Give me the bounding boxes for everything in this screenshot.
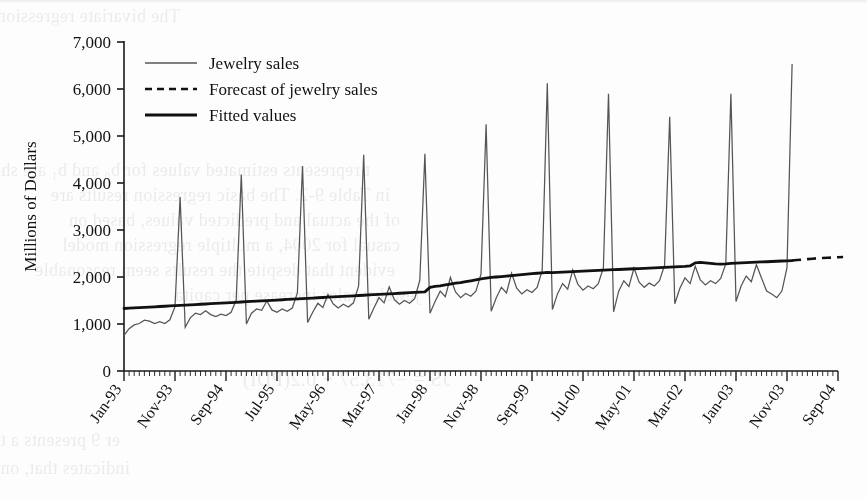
jewelry-sales-chart: 01,0002,0003,0004,0005,0006,0007,000Mill… <box>0 0 867 499</box>
series-forecast <box>792 257 843 261</box>
x-axis-tick-label: Jul-95 <box>241 381 278 424</box>
x-axis-tick-label: Nov-98 <box>439 381 481 431</box>
series-jewelry-sales <box>124 64 792 335</box>
y-axis-tick-label: 5,000 <box>73 127 111 146</box>
x-axis-tick-label: Jan-98 <box>392 381 430 426</box>
legend-label: Fitted values <box>209 106 296 125</box>
x-axis-tick-label: Jul-00 <box>547 381 584 424</box>
series-fitted-values <box>124 261 792 309</box>
x-axis-tick-label: May-01 <box>591 381 635 433</box>
x-axis-tick-label: Jan-03 <box>698 381 736 426</box>
legend-item: Fitted values <box>145 106 296 125</box>
legend-label: Forecast of jewelry sales <box>209 80 378 99</box>
legend-item: Forecast of jewelry sales <box>145 80 378 99</box>
x-axis-tick-label: Mar-97 <box>338 381 379 430</box>
y-axis-tick-label: 1,000 <box>73 315 111 334</box>
legend-label: Jewelry sales <box>209 54 299 73</box>
chart-page: 01,0002,0003,0004,0005,0006,0007,000Mill… <box>0 0 867 499</box>
x-axis-tick-label: Sep-99 <box>493 381 534 428</box>
x-axis-tick-label: Nov-93 <box>133 381 175 431</box>
y-axis-tick-label: 0 <box>103 362 112 381</box>
x-axis-tick-label: May-96 <box>285 381 329 433</box>
x-axis-tick-label: Nov-03 <box>745 381 787 431</box>
x-axis-tick-label: Jan-93 <box>86 381 124 426</box>
y-axis-title: Millions of Dollars <box>21 141 40 271</box>
legend-item: Jewelry sales <box>145 54 299 73</box>
y-axis-tick-label: 2,000 <box>73 268 111 287</box>
x-axis-tick-label: Mar-02 <box>644 381 685 430</box>
y-axis-tick-label: 6,000 <box>73 80 111 99</box>
x-axis-tick-label: Sep-94 <box>187 381 228 428</box>
y-axis-tick-label: 4,000 <box>73 174 111 193</box>
y-axis-tick-label: 7,000 <box>73 33 111 52</box>
x-axis-tick-label: Sep-04 <box>799 381 840 428</box>
y-axis-tick-label: 3,000 <box>73 221 111 240</box>
